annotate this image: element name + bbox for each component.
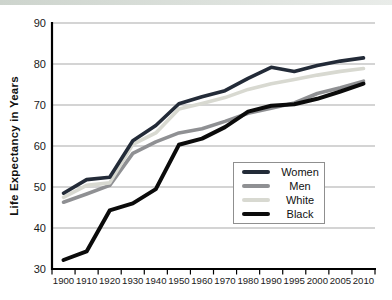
x-tick-label-1970: 1970 — [214, 275, 235, 286]
y-tick-label-90: 90 — [34, 17, 46, 29]
x-tick-label-1950: 1950 — [168, 275, 189, 286]
legend-label-white: White — [276, 194, 324, 206]
x-tick-label-2010: 2010 — [353, 275, 374, 286]
x-tick-label-2005: 2005 — [330, 275, 351, 286]
legend-item-white: White — [242, 194, 324, 206]
legend-label-men: Men — [276, 180, 324, 192]
legend-swatch-white — [242, 198, 270, 202]
x-tick-label-1920: 1920 — [99, 275, 120, 286]
x-tick-label-1960: 1960 — [191, 275, 212, 286]
y-tick-label-70: 70 — [34, 99, 46, 111]
chart-svg: 3040506070809019001910192019301940195019… — [0, 0, 392, 300]
legend-swatch-women — [242, 170, 270, 174]
y-tick-label-80: 80 — [34, 58, 46, 70]
x-tick-label-1940: 1940 — [145, 275, 166, 286]
legend-item-women: Women — [242, 166, 324, 178]
y-tick-label-60: 60 — [34, 140, 46, 152]
y-tick-label-40: 40 — [34, 222, 46, 234]
legend-swatch-black — [242, 212, 270, 216]
legend: Women Men White Black — [233, 162, 325, 224]
y-axis-title: Life Expectancy in Years — [8, 76, 20, 215]
x-tick-label-1980: 1980 — [237, 275, 258, 286]
legend-item-men: Men — [242, 180, 324, 192]
x-tick-label-1930: 1930 — [122, 275, 143, 286]
y-tick-label-30: 30 — [34, 263, 46, 275]
legend-swatch-men — [242, 184, 270, 188]
legend-label-black: Black — [276, 208, 324, 220]
legend-label-women: Women — [276, 166, 324, 178]
x-tick-label-1990: 1990 — [261, 275, 282, 286]
x-tick-label-1910: 1910 — [76, 275, 97, 286]
x-tick-label-2000: 2000 — [307, 275, 328, 286]
legend-item-black: Black — [242, 208, 324, 220]
life-expectancy-chart: 3040506070809019001910192019301940195019… — [0, 0, 392, 300]
x-tick-label-1900: 1900 — [53, 275, 74, 286]
y-tick-label-50: 50 — [34, 181, 46, 193]
x-tick-label-1995: 1995 — [284, 275, 305, 286]
